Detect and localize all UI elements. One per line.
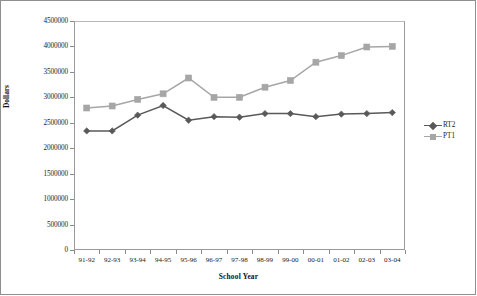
data-point-square bbox=[338, 53, 344, 59]
x-axis-title: School Year bbox=[0, 272, 477, 281]
data-point-diamond bbox=[389, 109, 395, 115]
data-point-diamond bbox=[287, 110, 293, 116]
line-chart: Dollars 05000001000000150000020000002500… bbox=[0, 0, 477, 296]
legend-swatch-icon bbox=[424, 132, 442, 141]
chart-legend: RT2PT1 bbox=[424, 120, 455, 142]
data-point-square bbox=[389, 43, 395, 49]
legend-square-icon bbox=[430, 134, 436, 140]
data-point-diamond bbox=[313, 113, 319, 119]
data-point-diamond bbox=[364, 110, 370, 116]
data-point-square bbox=[313, 59, 319, 65]
data-point-diamond bbox=[211, 113, 217, 119]
data-point-diamond bbox=[262, 110, 268, 116]
legend-item-pt1[interactable]: PT1 bbox=[424, 131, 455, 142]
data-point-diamond bbox=[185, 117, 191, 123]
data-point-square bbox=[84, 105, 90, 111]
data-point-square bbox=[364, 44, 370, 50]
data-point-square bbox=[135, 96, 141, 102]
data-point-diamond bbox=[160, 102, 166, 108]
data-point-square bbox=[160, 91, 166, 97]
legend-swatch-icon bbox=[424, 121, 442, 130]
legend-diamond-icon bbox=[429, 122, 437, 130]
data-point-square bbox=[237, 94, 243, 100]
data-point-square bbox=[287, 78, 293, 84]
series-pt1 bbox=[84, 43, 396, 111]
data-point-diamond bbox=[338, 111, 344, 117]
data-point-square bbox=[211, 94, 217, 100]
data-point-square bbox=[109, 103, 115, 109]
legend-item-rt2[interactable]: RT2 bbox=[424, 120, 455, 131]
data-point-square bbox=[262, 84, 268, 90]
series-rt2 bbox=[84, 102, 396, 134]
data-point-diamond bbox=[236, 114, 242, 120]
data-point-square bbox=[186, 75, 192, 81]
series-layer bbox=[0, 0, 477, 296]
legend-label: RT2 bbox=[443, 120, 455, 131]
data-point-diamond bbox=[84, 128, 90, 134]
legend-label: PT1 bbox=[443, 131, 455, 142]
